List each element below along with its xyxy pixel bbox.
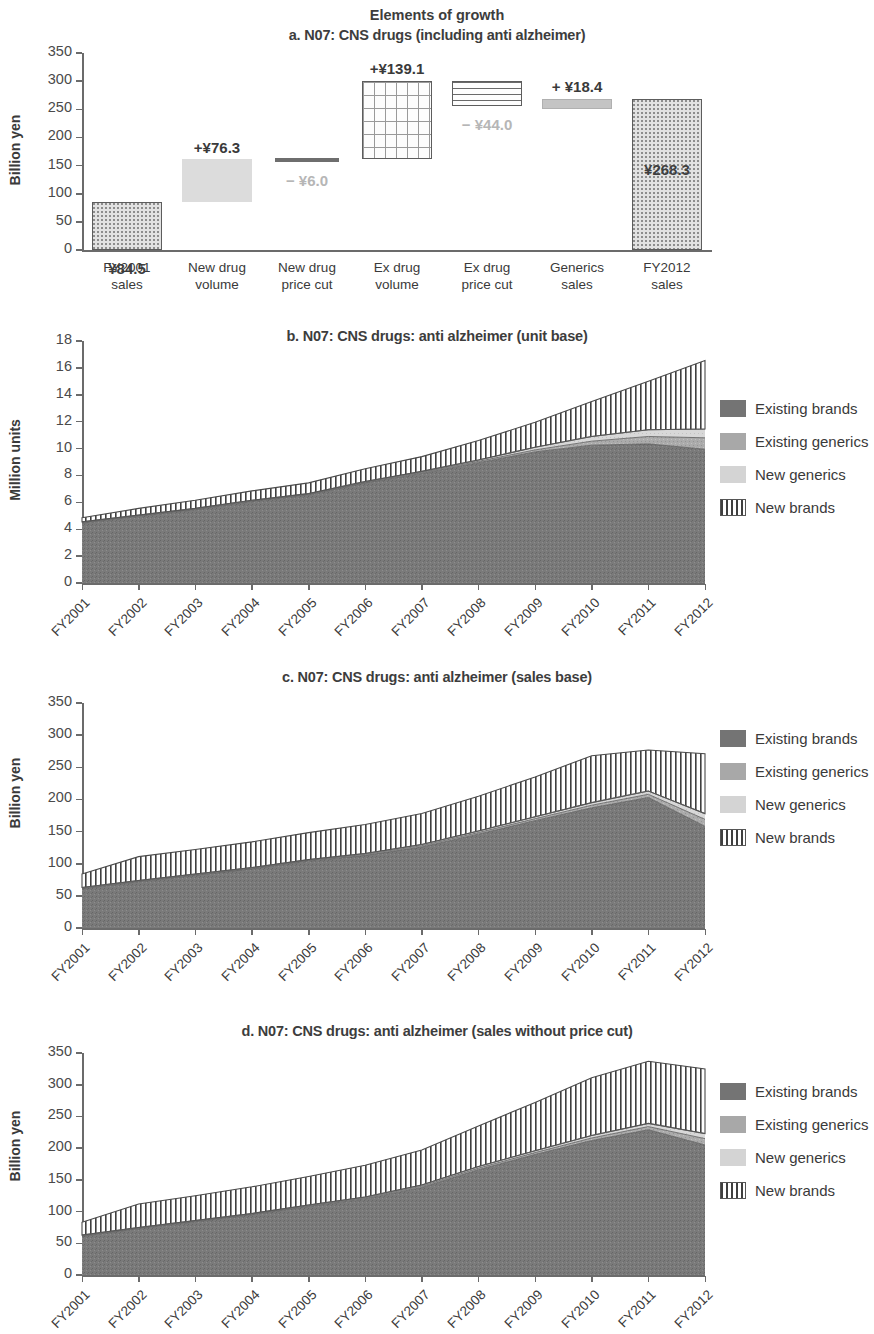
legend-label-existing-generics: Existing generics bbox=[755, 763, 868, 780]
x-tick-mark bbox=[591, 1276, 593, 1282]
legend-item-existing-brands: Existing brands bbox=[720, 730, 858, 747]
y-tick-mark bbox=[76, 1116, 82, 1118]
panel-a-category-label-6: Genericssales bbox=[527, 260, 627, 294]
y-tick-label: 350 bbox=[24, 693, 72, 709]
area-boundary-new-generics bbox=[82, 791, 705, 887]
x-tick-label-FY2011: FY2011 bbox=[605, 940, 659, 994]
legend-label-existing-generics: Existing generics bbox=[755, 433, 868, 450]
y-tick-label: 200 bbox=[24, 789, 72, 805]
legend-swatch-existing-brands bbox=[720, 730, 746, 747]
x-tick-label-FY2004: FY2004 bbox=[208, 1287, 262, 1334]
x-tick-label-FY2009: FY2009 bbox=[491, 595, 545, 649]
x-tick-label-FY2002: FY2002 bbox=[95, 1287, 149, 1334]
y-axis-line bbox=[82, 1053, 84, 1276]
legend-item-existing-generics: Existing generics bbox=[720, 763, 868, 780]
area-band-existing-brands bbox=[82, 444, 705, 583]
y-tick-mark bbox=[76, 475, 82, 477]
x-tick-mark bbox=[421, 929, 423, 935]
category-line: price cut bbox=[257, 277, 357, 294]
y-tick-label: 250 bbox=[24, 99, 72, 115]
y-tick-mark bbox=[76, 702, 82, 704]
y-tick-mark bbox=[76, 555, 82, 557]
y-tick-mark bbox=[76, 1147, 82, 1149]
panel-a-category-label-7: FY2012sales bbox=[617, 260, 717, 294]
panel-a-category-label-4: Ex drugvolume bbox=[347, 260, 447, 294]
panel-a-category-label-3: New drugprice cut bbox=[257, 260, 357, 294]
legend-item-new-generics: New generics bbox=[720, 1149, 846, 1166]
area-boundary-existing-generics bbox=[82, 436, 705, 522]
legend-swatch-new-brands bbox=[720, 1182, 746, 1199]
y-tick-label: 10 bbox=[24, 439, 72, 455]
panel-a-waterfall-chart: a. N07: CNS drugs (including anti alzhei… bbox=[0, 0, 874, 320]
x-tick-label-FY2008: FY2008 bbox=[435, 595, 489, 649]
x-tick-mark bbox=[138, 584, 140, 590]
y-tick-label: 0 bbox=[24, 1265, 72, 1281]
x-tick-label-FY2004: FY2004 bbox=[208, 940, 262, 994]
category-line: Ex drug bbox=[437, 260, 537, 277]
y-tick-mark bbox=[76, 109, 82, 111]
y-tick-mark bbox=[76, 137, 82, 139]
x-tick-mark bbox=[308, 1276, 310, 1282]
legend-item-existing-brands: Existing brands bbox=[720, 400, 858, 417]
y-tick-label: 100 bbox=[24, 184, 72, 200]
category-line: FY2012 bbox=[617, 260, 717, 277]
panel-d-y-axis-label: Billion yen bbox=[7, 1081, 23, 1211]
x-tick-label-FY2009: FY2009 bbox=[491, 1287, 545, 1334]
y-tick-mark bbox=[76, 394, 82, 396]
y-tick-mark bbox=[76, 529, 82, 531]
y-axis-line bbox=[82, 53, 84, 251]
x-tick-label-FY2007: FY2007 bbox=[378, 1287, 432, 1334]
x-tick-label-FY2006: FY2006 bbox=[321, 1287, 375, 1334]
x-tick-mark bbox=[308, 584, 310, 590]
category-line: sales bbox=[77, 277, 177, 294]
area-boundary-existing-brands bbox=[82, 444, 705, 523]
y-tick-label: 16 bbox=[24, 358, 72, 374]
x-tick-mark bbox=[705, 1276, 707, 1282]
legend-item-new-generics: New generics bbox=[720, 466, 846, 483]
legend-item-existing-generics: Existing generics bbox=[720, 1116, 868, 1133]
x-tick-label-FY2006: FY2006 bbox=[321, 595, 375, 649]
y-axis-line bbox=[82, 703, 84, 929]
x-tick-mark bbox=[82, 929, 84, 935]
y-tick-mark bbox=[76, 165, 82, 167]
area-boundary-new-generics bbox=[82, 1123, 705, 1235]
x-tick-label-FY2006: FY2006 bbox=[321, 940, 375, 994]
y-tick-label: 350 bbox=[24, 43, 72, 59]
legend-swatch-existing-generics bbox=[720, 763, 746, 780]
y-tick-label: 300 bbox=[24, 725, 72, 741]
y-tick-mark bbox=[76, 734, 82, 736]
y-tick-mark bbox=[76, 221, 82, 223]
y-tick-label: 250 bbox=[24, 1106, 72, 1122]
panel-c-area-chart: c. N07: CNS drugs: anti alzheimer (sales… bbox=[0, 660, 874, 1000]
y-tick-mark bbox=[76, 1084, 82, 1086]
x-tick-label-FY2001: FY2001 bbox=[38, 595, 92, 649]
legend-item-new-generics: New generics bbox=[720, 796, 846, 813]
y-tick-label: 12 bbox=[24, 412, 72, 428]
y-tick-label: 150 bbox=[24, 822, 72, 838]
category-line: volume bbox=[167, 277, 267, 294]
category-line: price cut bbox=[437, 277, 537, 294]
y-tick-label: 100 bbox=[24, 854, 72, 870]
legend-label-new-brands: New brands bbox=[755, 1182, 835, 1199]
legend-swatch-new-brands bbox=[720, 499, 746, 516]
area-boundary-existing-brands bbox=[82, 798, 705, 889]
x-tick-label-FY2005: FY2005 bbox=[265, 1287, 319, 1334]
x-tick-mark bbox=[478, 929, 480, 935]
y-tick-label: 2 bbox=[24, 546, 72, 562]
y-axis-line bbox=[82, 341, 84, 584]
x-axis-line bbox=[82, 583, 705, 585]
panel-b-y-axis-label: Million units bbox=[7, 395, 23, 525]
y-tick-mark bbox=[76, 1052, 82, 1054]
x-tick-label-FY2003: FY2003 bbox=[151, 940, 205, 994]
x-tick-label-FY2010: FY2010 bbox=[548, 1287, 602, 1334]
y-tick-label: 18 bbox=[24, 331, 72, 347]
category-line: volume bbox=[347, 277, 447, 294]
x-tick-mark bbox=[705, 929, 707, 935]
y-tick-label: 50 bbox=[24, 212, 72, 228]
x-tick-mark bbox=[705, 584, 707, 590]
area-band-new-generics bbox=[82, 791, 705, 888]
waterfall-bar-6 bbox=[542, 99, 612, 109]
area-boundary-existing-brands bbox=[82, 1130, 705, 1237]
y-tick-mark bbox=[76, 80, 82, 82]
panel-b-area-chart: b. N07: CNS drugs: anti alzheimer (unit … bbox=[0, 320, 874, 660]
